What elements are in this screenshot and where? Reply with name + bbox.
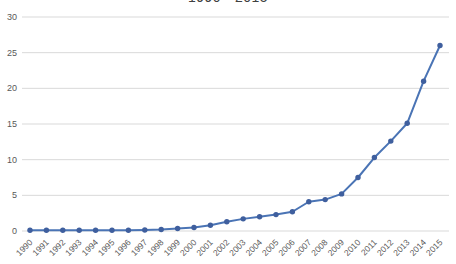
series-line: [30, 46, 440, 231]
x-tick-label-2009: 2009: [326, 237, 347, 258]
data-point-2003: [241, 216, 246, 221]
x-tick-label-1996: 1996: [112, 237, 133, 258]
data-point-1999: [175, 226, 180, 231]
data-point-1996: [126, 228, 131, 233]
data-point-1991: [44, 228, 49, 233]
data-point-2005: [273, 212, 278, 217]
x-tick-label-2003: 2003: [227, 237, 248, 258]
y-tick-label-25: 25: [7, 48, 17, 58]
x-tick-label-2006: 2006: [276, 237, 297, 258]
x-tick-label-2010: 2010: [342, 237, 363, 258]
x-tick-label-2005: 2005: [260, 237, 281, 258]
data-point-1994: [93, 228, 98, 233]
x-tick-label-1998: 1998: [145, 237, 166, 258]
x-tick-label-2008: 2008: [309, 237, 330, 258]
data-point-2006: [290, 209, 295, 214]
y-tick-label-0: 0: [12, 226, 17, 236]
data-point-1997: [142, 227, 147, 232]
data-point-2014: [421, 79, 426, 84]
x-tick-label-1993: 1993: [63, 237, 84, 258]
x-tick-label-2000: 2000: [178, 237, 199, 258]
data-point-2012: [388, 138, 393, 143]
y-tick-label-15: 15: [7, 119, 17, 129]
data-point-1992: [60, 228, 65, 233]
x-tick-label-2002: 2002: [211, 237, 232, 258]
data-point-2007: [306, 199, 311, 204]
y-tick-label-5: 5: [12, 190, 17, 200]
line-chart: 1990 - 2015 0510152025301990199119921993…: [0, 0, 456, 264]
data-point-1998: [159, 227, 164, 232]
data-point-2015: [437, 43, 442, 48]
data-point-2013: [405, 121, 410, 126]
data-point-2010: [355, 175, 360, 180]
data-point-1990: [27, 228, 32, 233]
data-point-2001: [208, 223, 213, 228]
x-tick-label-1997: 1997: [129, 237, 150, 258]
data-point-2002: [224, 219, 229, 224]
x-tick-label-2012: 2012: [375, 237, 396, 258]
data-point-1993: [77, 228, 82, 233]
x-tick-label-2007: 2007: [293, 237, 314, 258]
x-tick-label-1999: 1999: [162, 237, 183, 258]
data-point-2008: [323, 197, 328, 202]
y-tick-label-10: 10: [7, 155, 17, 165]
x-tick-label-1992: 1992: [47, 237, 68, 258]
data-point-2011: [372, 155, 377, 160]
x-tick-label-2004: 2004: [244, 237, 265, 258]
x-tick-label-2001: 2001: [194, 237, 215, 258]
x-tick-label-1990: 1990: [14, 237, 35, 258]
plot-area: 0510152025301990199119921993199419951996…: [0, 0, 456, 264]
x-tick-label-2015: 2015: [424, 237, 445, 258]
data-point-1995: [109, 228, 114, 233]
y-tick-label-20: 20: [7, 83, 17, 93]
x-tick-label-1991: 1991: [30, 237, 51, 258]
x-tick-label-2011: 2011: [359, 237, 379, 257]
data-point-2000: [191, 225, 196, 230]
x-tick-label-1994: 1994: [80, 237, 101, 258]
data-point-2004: [257, 214, 262, 219]
data-point-2009: [339, 191, 344, 196]
x-tick-label-2013: 2013: [391, 237, 412, 258]
chart-title: 1990 - 2015: [0, 0, 456, 4]
x-tick-label-1995: 1995: [96, 237, 117, 258]
x-tick-label-2014: 2014: [408, 237, 429, 258]
y-tick-label-30: 30: [7, 12, 17, 22]
